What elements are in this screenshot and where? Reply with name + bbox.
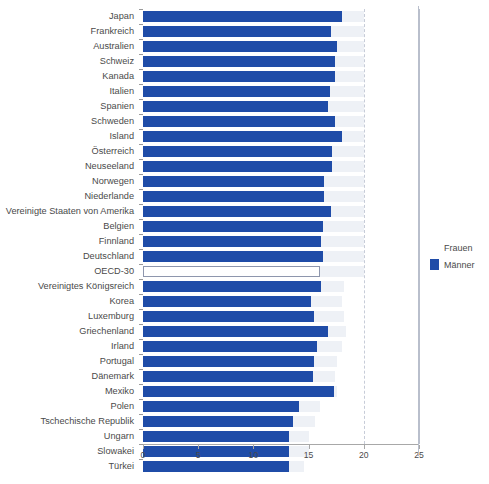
- bar-maenner-highlight: [143, 266, 320, 277]
- bar-row: [143, 39, 419, 54]
- value-axis-ticks: 0510152025: [143, 445, 419, 465]
- bar-maenner: [143, 221, 323, 232]
- category-label: Ungarn: [0, 429, 139, 444]
- bar-maenner: [143, 401, 299, 412]
- bar-maenner: [143, 416, 293, 427]
- category-label: Kanada: [0, 69, 139, 84]
- bar-row: [143, 219, 419, 234]
- category-label: Schweden: [0, 114, 139, 129]
- category-label: Japan: [0, 9, 139, 24]
- legend-item[interactable]: Frauen: [430, 239, 489, 256]
- bar-maenner: [143, 356, 314, 367]
- bar-row: [143, 324, 419, 339]
- bar-maenner: [143, 176, 324, 187]
- bar-maenner: [143, 311, 314, 322]
- bar-row: [143, 84, 419, 99]
- bar-row: [143, 99, 419, 114]
- category-label: Mexiko: [0, 384, 139, 399]
- category-label: Belgien: [0, 219, 139, 234]
- bar-maenner: [143, 236, 321, 247]
- bar-row: [143, 399, 419, 414]
- category-label: Österreich: [0, 144, 139, 159]
- category-label: Portugal: [0, 354, 139, 369]
- category-label: Vereinigtes Königsreich: [0, 279, 139, 294]
- bar-row: [143, 429, 419, 444]
- legend-item[interactable]: Männer: [430, 256, 489, 273]
- value-axis-tick-label: 5: [196, 450, 201, 460]
- bar-row: [143, 414, 419, 429]
- bar-row: [143, 354, 419, 369]
- bar-row: [143, 144, 419, 159]
- bar-row: [143, 54, 419, 69]
- category-label: Irland: [0, 339, 139, 354]
- category-label: OECD-30: [0, 264, 139, 279]
- reference-line: [419, 9, 420, 444]
- plot-area: JapanFrankreichAustralienSchweizKanadaIt…: [0, 0, 489, 484]
- category-label: Norwegen: [0, 174, 139, 189]
- category-label: Frankreich: [0, 24, 139, 39]
- bar-maenner: [143, 101, 328, 112]
- value-axis-tick-label: 25: [414, 450, 424, 460]
- category-label: Tschechische Republik: [0, 414, 139, 429]
- bar-row: [143, 69, 419, 84]
- bar-row: [143, 264, 419, 279]
- category-label: Türkei: [0, 459, 139, 474]
- bar-row: [143, 249, 419, 264]
- value-axis-tick-label: 0: [141, 450, 146, 460]
- chart-root: JapanFrankreichAustralienSchweizKanadaIt…: [0, 0, 489, 484]
- bar-row: [143, 384, 419, 399]
- bar-row: [143, 204, 419, 219]
- category-label: Italien: [0, 84, 139, 99]
- bar-maenner: [143, 56, 335, 67]
- bar-maenner: [143, 386, 334, 397]
- bar-maenner: [143, 341, 317, 352]
- bar-maenner: [143, 116, 335, 127]
- bar-row: [143, 279, 419, 294]
- category-label: Polen: [0, 399, 139, 414]
- legend: FrauenMänner: [430, 239, 489, 273]
- bar-row: [143, 24, 419, 39]
- bar-maenner: [143, 281, 321, 292]
- category-label: Neuseeland: [0, 159, 139, 174]
- bar-maenner: [143, 326, 328, 337]
- bar-maenner: [143, 161, 332, 172]
- category-label: Australien: [0, 39, 139, 54]
- legend-divider: [418, 6, 419, 456]
- bar-maenner: [143, 191, 324, 202]
- bar-row: [143, 174, 419, 189]
- category-label: Finnland: [0, 234, 139, 249]
- category-label: Vereinigte Staaten von Amerika: [0, 204, 139, 219]
- bar-row: [143, 189, 419, 204]
- value-axis-tick: [364, 445, 365, 449]
- bar-row: [143, 294, 419, 309]
- bar-row: [143, 114, 419, 129]
- category-label: Slowakei: [0, 444, 139, 459]
- category-label: Schweiz: [0, 54, 139, 69]
- legend-label: Frauen: [444, 243, 473, 253]
- bar-maenner: [143, 26, 331, 37]
- value-axis-tick: [198, 445, 199, 449]
- bars-container: [143, 9, 419, 444]
- bar-row: [143, 339, 419, 354]
- category-label: Niederlande: [0, 189, 139, 204]
- legend-swatch-maenner: [430, 259, 439, 270]
- bar-maenner: [143, 371, 313, 382]
- legend-label: Männer: [444, 260, 475, 270]
- bar-row: [143, 159, 419, 174]
- bar-maenner: [143, 41, 337, 52]
- bar-row: [143, 309, 419, 324]
- category-label: Luxemburg: [0, 309, 139, 324]
- category-label: Spanien: [0, 99, 139, 114]
- bar-row: [143, 9, 419, 24]
- legend-swatch-frauen: [430, 242, 439, 253]
- bar-maenner: [143, 131, 342, 142]
- category-label: Deutschland: [0, 249, 139, 264]
- value-axis-tick-label: 20: [359, 450, 369, 460]
- value-axis-tick: [419, 445, 420, 449]
- bar-row: [143, 129, 419, 144]
- bar-row: [143, 234, 419, 249]
- reference-line: [364, 9, 365, 444]
- category-label: Dänemark: [0, 369, 139, 384]
- bar-maenner: [143, 296, 311, 307]
- value-axis-tick-label: 10: [249, 450, 259, 460]
